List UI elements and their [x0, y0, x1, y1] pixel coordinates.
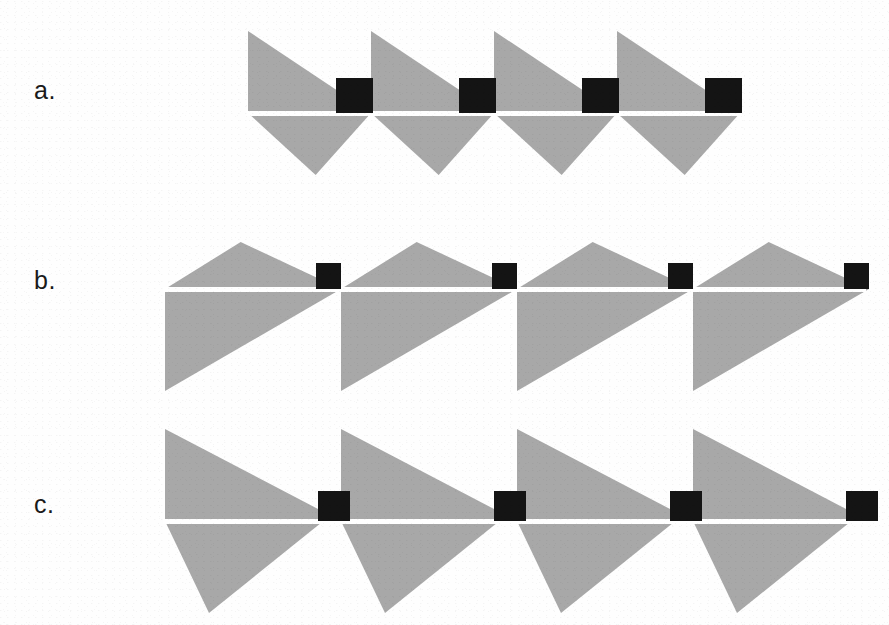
stimulus-row-c — [163, 429, 878, 613]
marker-square-a-4 — [705, 78, 742, 113]
wave-crest-c-2 — [341, 429, 517, 521]
row-label-a: a. — [34, 76, 56, 105]
wave-crest-c-3 — [517, 429, 693, 521]
wave-crest-c-4 — [693, 429, 869, 521]
marker-square-b-4 — [844, 263, 869, 289]
figure-canvas: a. b. c. — [0, 0, 889, 625]
wave-trough-a-4 — [617, 113, 740, 175]
marker-square-a-1 — [336, 78, 373, 113]
wave-trough-a-2 — [371, 113, 494, 175]
baseline-a — [246, 111, 742, 116]
baseline-c — [163, 519, 866, 524]
wave-trough-c-3 — [517, 521, 675, 613]
wave-crest-b-1 — [165, 242, 341, 289]
wave-trough-a-1 — [248, 113, 371, 175]
marker-square-c-3 — [670, 491, 702, 521]
wave-trough-b-2 — [341, 289, 517, 391]
wave-trough-c-1 — [165, 521, 323, 613]
marker-square-b-3 — [668, 263, 693, 289]
wave-trough-b-4 — [693, 289, 869, 391]
wave-crest-b-4 — [693, 242, 869, 289]
marker-square-c-4 — [846, 491, 878, 521]
stimulus-svg — [0, 0, 889, 625]
row-label-b: b. — [34, 266, 56, 295]
marker-square-a-2 — [459, 78, 496, 113]
marker-square-b-1 — [316, 263, 341, 289]
marker-square-c-1 — [318, 491, 350, 521]
stimulus-row-b — [163, 242, 869, 391]
baseline-b — [163, 287, 866, 292]
wave-trough-c-4 — [693, 521, 851, 613]
marker-square-b-2 — [492, 263, 517, 289]
wave-trough-b-1 — [165, 289, 341, 391]
stimulus-row-a — [246, 31, 742, 175]
wave-crest-c-1 — [165, 429, 341, 521]
wave-crest-a-1 — [248, 31, 371, 113]
wave-trough-a-3 — [494, 113, 617, 175]
marker-square-a-3 — [582, 78, 619, 113]
wave-crest-a-3 — [494, 31, 617, 113]
wave-trough-c-2 — [341, 521, 499, 613]
wave-crest-b-3 — [517, 242, 693, 289]
wave-crest-a-4 — [617, 31, 740, 113]
wave-crest-a-2 — [371, 31, 494, 113]
wave-crest-b-2 — [341, 242, 517, 289]
stimulus-panels — [0, 0, 889, 625]
marker-square-c-2 — [494, 491, 526, 521]
wave-trough-b-3 — [517, 289, 693, 391]
paper-grain-overlay — [0, 0, 889, 625]
row-label-c: c. — [34, 490, 54, 519]
